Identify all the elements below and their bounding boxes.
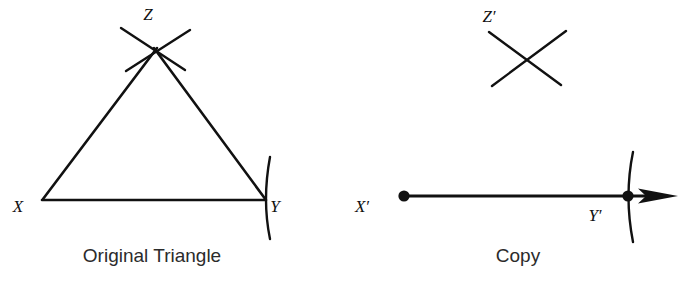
original-triangle-panel: X Y Z Original Triangle — [12, 5, 281, 266]
triangle-side-zy — [154, 48, 266, 200]
vertex-label-x: X — [12, 197, 24, 216]
caption-original-triangle: Original Triangle — [83, 245, 221, 266]
arc-mark-z-prime-left — [489, 32, 561, 85]
arc-mark-z-prime-right — [492, 31, 566, 86]
point-dot-x-prime — [398, 190, 409, 201]
vertex-label-z: Z — [143, 5, 153, 24]
copy-panel: X′ Y′ Z′ Copy — [354, 7, 678, 266]
point-dot-y-prime — [622, 190, 633, 201]
triangle-side-xz — [43, 48, 157, 199]
construction-diagram: X Y Z Original Triangle X′ Y′ Z′ Copy — [0, 0, 689, 283]
vertex-label-z-prime: Z′ — [482, 7, 495, 26]
geometry-figure: X Y Z Original Triangle X′ Y′ Z′ Copy — [0, 0, 689, 283]
vertex-label-y: Y — [270, 197, 281, 216]
vertex-label-x-prime: X′ — [354, 197, 369, 216]
arc-mark-z-left — [121, 28, 185, 70]
caption-copy: Copy — [496, 245, 541, 266]
vertex-label-y-prime: Y′ — [588, 206, 601, 225]
